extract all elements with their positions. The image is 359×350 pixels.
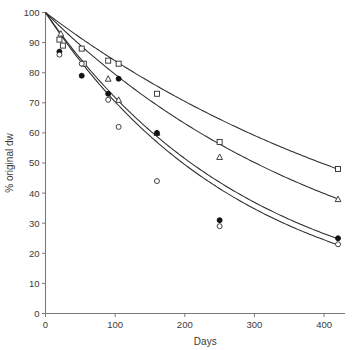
data-point-open-circle <box>116 124 121 129</box>
y-tick-label: 100 <box>24 7 40 18</box>
x-tick-label: 100 <box>107 319 123 330</box>
data-point-open-circle <box>106 97 111 102</box>
data-point-open-square <box>154 91 159 96</box>
data-point-open-triangle <box>105 76 111 82</box>
decay-curve-open-circle <box>46 13 339 245</box>
data-point-open-triangle <box>335 196 341 202</box>
y-tick-label: 40 <box>29 188 40 199</box>
decay-curve-open-triangle <box>46 13 339 199</box>
x-tick-label: 200 <box>177 319 193 330</box>
data-point-filled-circle <box>217 218 222 223</box>
data-point-filled-circle <box>336 236 341 241</box>
data-point-open-circle <box>79 61 84 66</box>
decay-curves-group <box>46 13 339 245</box>
x-tick-label: 0 <box>43 319 48 330</box>
data-point-open-square <box>106 58 111 63</box>
data-point-open-circle <box>217 224 222 229</box>
chart-plot-area: 0102030405060708090100 0100200300400 Day… <box>0 0 359 350</box>
data-point-filled-circle <box>154 130 159 135</box>
y-tick-label: 50 <box>29 157 40 168</box>
data-point-open-triangle <box>217 154 223 160</box>
x-axis-ticks: 0100200300400 <box>43 314 332 331</box>
y-tick-label: 0 <box>34 308 39 319</box>
data-point-open-square <box>57 37 62 42</box>
y-tick-label: 90 <box>29 37 40 48</box>
data-point-open-square <box>336 167 341 172</box>
y-tick-label: 60 <box>29 127 40 138</box>
data-point-filled-circle <box>116 76 121 81</box>
decay-chart-figure: 0102030405060708090100 0100200300400 Day… <box>0 0 359 350</box>
y-tick-label: 10 <box>29 278 40 289</box>
data-point-open-circle <box>154 179 159 184</box>
x-tick-label: 400 <box>316 319 332 330</box>
data-point-open-circle <box>57 52 62 57</box>
axes-group <box>46 13 346 314</box>
y-tick-label: 20 <box>29 248 40 259</box>
decay-curve-open-square <box>46 13 339 170</box>
y-tick-label: 80 <box>29 67 40 78</box>
data-point-open-square <box>116 61 121 66</box>
y-axis-ticks: 0102030405060708090100 <box>24 7 46 319</box>
data-markers-group <box>57 31 341 247</box>
data-point-open-circle <box>336 242 341 247</box>
data-point-open-square <box>60 43 65 48</box>
data-point-filled-circle <box>79 73 84 78</box>
data-point-filled-circle <box>106 91 111 96</box>
data-point-open-square <box>217 139 222 144</box>
x-tick-label: 300 <box>247 319 263 330</box>
y-tick-label: 30 <box>29 218 40 229</box>
decay-curve-filled-circle <box>46 13 339 239</box>
y-axis-title: % original dw <box>4 132 15 192</box>
y-tick-label: 70 <box>29 97 40 108</box>
x-axis-title: Days <box>194 336 217 347</box>
data-point-open-square <box>79 46 84 51</box>
